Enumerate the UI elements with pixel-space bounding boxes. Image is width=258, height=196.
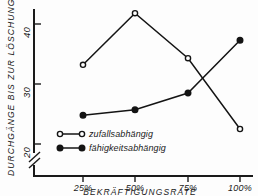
legend-filled-circle-icon-left [57,145,63,151]
series-faehigkeitsabhaengig-line [83,40,240,115]
chart-figure: 40 30 20 DURCHGÄNGE BIS ZUR LÖSCHUNG 25%… [0,0,258,196]
x-axis-line [34,166,252,176]
legend-filled-circle-icon-right [79,145,85,151]
y-axis-title: DURCHGÄNGE BIS ZUR LÖSCHUNG [6,0,16,176]
y-tick-label-40: 40 [21,26,32,37]
data-point [80,62,85,67]
data-point [80,112,86,118]
series-faehigkeitsabhaengig-markers [80,37,243,118]
series-zufallsabhaengig-line [83,13,240,129]
data-point [132,107,138,113]
data-point [237,126,242,131]
chart-plot-area: 40 30 20 DURCHGÄNGE BIS ZUR LÖSCHUNG 25%… [0,0,258,196]
data-point [132,11,137,16]
data-point [237,37,243,43]
x-tick-label-100: 100% [228,183,252,193]
legend-open-circle-icon-right [79,131,84,136]
data-point [185,56,190,61]
legend-label-zufallsabhaengig: zufallsabhängig [88,129,153,139]
data-point [185,90,191,96]
chart-legend: zufallsabhängig fähigkeitsabhängig [57,129,166,153]
legend-open-circle-icon-left [57,131,62,136]
y-tick-label-20: 20 [21,146,32,158]
x-axis-title: BEKRÄFTIGUNGSRATE [83,187,196,196]
legend-label-faehigkeitsabhaengig: fähigkeitsabhängig [89,143,166,153]
y-tick-label-30: 30 [21,86,32,97]
